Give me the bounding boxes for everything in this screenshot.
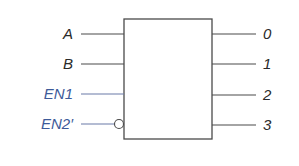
input-label-b: B <box>13 56 73 72</box>
decoder-box <box>124 19 212 139</box>
output-label-1: 1 <box>263 56 271 72</box>
output-label-3: 3 <box>263 117 271 133</box>
input-label-a: A <box>13 26 73 42</box>
input-label-en2: EN2′ <box>13 116 73 132</box>
decoder-diagram <box>0 0 299 166</box>
input-label-en1: EN1 <box>13 86 73 102</box>
inversion-bubble <box>115 120 124 129</box>
output-label-0: 0 <box>263 26 271 42</box>
output-label-2: 2 <box>263 87 271 103</box>
